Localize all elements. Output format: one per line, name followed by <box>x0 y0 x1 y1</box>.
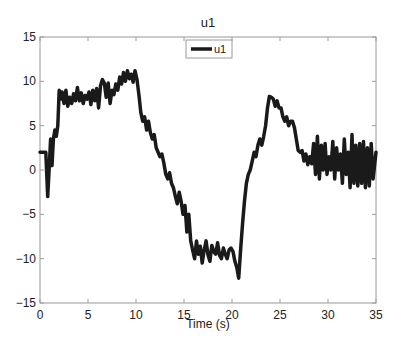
x-tick-label: 0 <box>37 308 44 322</box>
legend-label: u1 <box>214 43 226 55</box>
y-tick-label: 10 <box>23 74 37 88</box>
chart-title: u1 <box>201 15 215 30</box>
x-axis-label: Time (s) <box>186 317 230 331</box>
series-line-u1 <box>40 71 376 279</box>
legend: u1 <box>186 40 232 58</box>
y-tick-label: −10 <box>16 252 37 266</box>
y-tick-label: −5 <box>22 207 36 221</box>
line-chart: u1 −15−10−5051015 05101520253035 Time (s… <box>0 0 401 349</box>
y-tick-label: 5 <box>29 119 36 133</box>
x-tick-label: 35 <box>369 308 383 322</box>
x-tick-label: 30 <box>321 308 335 322</box>
data-series <box>40 71 376 279</box>
y-tick-label: 0 <box>29 163 36 177</box>
x-tick-label: 25 <box>273 308 287 322</box>
y-tick-label: −15 <box>16 296 37 310</box>
x-tick-label: 5 <box>85 308 92 322</box>
x-tick-label: 10 <box>129 308 143 322</box>
x-axis-ticks: 05101520253035 <box>37 37 383 322</box>
y-tick-label: 15 <box>23 30 37 44</box>
